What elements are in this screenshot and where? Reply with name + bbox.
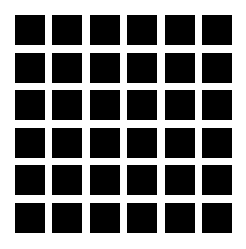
black-square [15,203,45,233]
black-square [127,53,157,83]
black-square [90,90,120,120]
black-square [165,203,195,233]
black-square [52,15,82,45]
black-square [15,90,45,120]
black-square [90,53,120,83]
black-square [165,165,195,195]
black-square [202,165,232,195]
black-square [165,90,195,120]
black-square [127,15,157,45]
black-square [90,128,120,158]
black-square [15,53,45,83]
black-square [127,128,157,158]
black-square [15,165,45,195]
black-square [90,203,120,233]
black-square [52,128,82,158]
black-square [52,53,82,83]
black-square [202,203,232,233]
square-grid [15,15,232,233]
black-square [127,203,157,233]
black-square [15,15,45,45]
black-square [202,53,232,83]
black-square [52,165,82,195]
black-square [127,165,157,195]
black-square [202,128,232,158]
black-square [127,90,157,120]
black-square [52,90,82,120]
black-square [165,128,195,158]
black-square [165,15,195,45]
black-square [52,203,82,233]
black-square [202,90,232,120]
black-square [90,165,120,195]
black-square [165,53,195,83]
black-square [90,15,120,45]
black-square [202,15,232,45]
black-square [15,128,45,158]
